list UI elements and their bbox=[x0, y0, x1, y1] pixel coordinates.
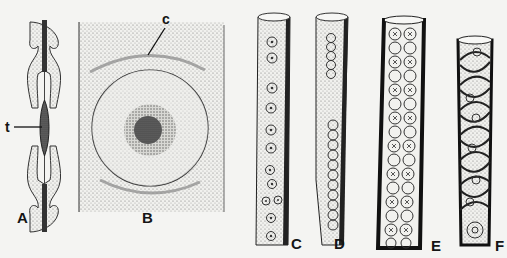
panel-label-f: F bbox=[495, 238, 504, 253]
panel-label-c: C bbox=[291, 236, 302, 251]
panel-label-a: A bbox=[17, 210, 28, 225]
panel-label-e: E bbox=[431, 238, 441, 253]
annotation-label-c: c bbox=[162, 12, 170, 26]
panel-label-d: D bbox=[334, 236, 345, 251]
annotation-label-t: t bbox=[5, 120, 10, 134]
panel-c-drawing bbox=[256, 13, 290, 245]
panel-e-drawing bbox=[378, 16, 424, 248]
figure-illustration bbox=[0, 0, 507, 258]
panel-f-drawing bbox=[458, 36, 492, 245]
panel-b-drawing bbox=[79, 22, 224, 212]
panel-a-drawing bbox=[14, 20, 61, 232]
panel-d-drawing bbox=[316, 13, 348, 245]
panel-label-b: B bbox=[142, 210, 153, 225]
